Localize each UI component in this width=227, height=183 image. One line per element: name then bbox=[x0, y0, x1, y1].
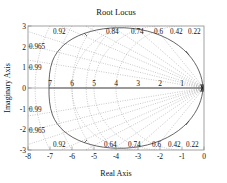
x-tick: -5 bbox=[91, 152, 97, 161]
damping-label: 0.92 bbox=[53, 141, 66, 149]
wn-label: 1 bbox=[180, 79, 184, 88]
damping-label: 0.965 bbox=[29, 127, 46, 135]
y-tick: -3 bbox=[20, 146, 26, 155]
x-tick: 0 bbox=[202, 152, 206, 161]
x-tick: -6 bbox=[69, 152, 75, 161]
damping-label: 0.74 bbox=[128, 141, 141, 149]
wn-label: 5 bbox=[92, 79, 96, 88]
damping-label: 0.6 bbox=[154, 28, 163, 36]
damping-label: 0.42 bbox=[168, 141, 181, 149]
damping-label: 0.99 bbox=[29, 64, 42, 72]
damping-label: 0.22 bbox=[188, 28, 201, 36]
plot-canvas: Root Locus Real Axis Imaginary Axis -8 -… bbox=[0, 0, 227, 183]
x-axis-label: Real Axis bbox=[100, 169, 131, 178]
wn-label: 7 bbox=[48, 79, 52, 88]
damping-label: 0.92 bbox=[53, 28, 66, 36]
y-tick: -1 bbox=[20, 105, 26, 114]
x-tick: -3 bbox=[135, 152, 141, 161]
damping-label: 0.42 bbox=[170, 28, 183, 36]
y-tick: 0 bbox=[22, 84, 26, 93]
root-locus-figure: Root Locus Real Axis Imaginary Axis -8 -… bbox=[0, 0, 227, 183]
y-tick: 2 bbox=[22, 43, 26, 52]
x-tick: -2 bbox=[157, 152, 163, 161]
damping-label: 0.99 bbox=[29, 106, 42, 114]
damping-label: 0.64 bbox=[104, 141, 117, 149]
wn-label: 2 bbox=[158, 79, 162, 88]
y-axis-label: Imaginary Axis bbox=[3, 63, 12, 113]
damping-label: 0.6 bbox=[152, 141, 161, 149]
y-tick: 3 bbox=[22, 22, 26, 31]
y-tick: 1 bbox=[22, 63, 26, 72]
wn-label: 6 bbox=[70, 79, 74, 88]
damping-label: 0.84 bbox=[106, 28, 119, 36]
damping-label: 0.965 bbox=[29, 43, 46, 51]
chart-title: Root Locus bbox=[96, 7, 135, 17]
damping-label: 0.74 bbox=[131, 28, 144, 36]
wn-label: 4 bbox=[114, 79, 118, 88]
x-tick: -7 bbox=[47, 152, 53, 161]
x-tick: -4 bbox=[113, 152, 119, 161]
x-tick-labels: -8 -7 -6 -5 -4 -3 -2 -1 0 bbox=[25, 152, 206, 161]
x-tick: -1 bbox=[179, 152, 185, 161]
wn-label: 3 bbox=[136, 79, 140, 88]
damping-label: 0.22 bbox=[186, 141, 199, 149]
y-tick: -2 bbox=[20, 125, 26, 134]
